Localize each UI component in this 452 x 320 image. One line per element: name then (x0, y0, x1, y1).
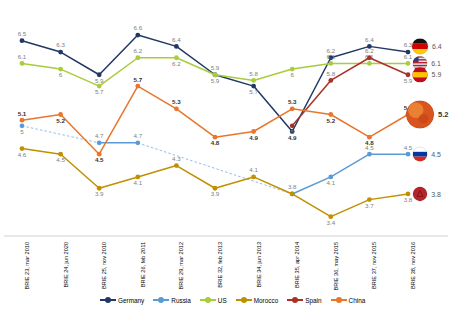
series-line (292, 58, 408, 126)
legend-item-spain[interactable]: Spain (287, 296, 321, 304)
data-label: 5 (290, 128, 294, 135)
legend-item-us[interactable]: US (200, 296, 227, 304)
data-point[interactable] (58, 50, 63, 55)
legend-label: Russia (171, 297, 191, 304)
data-label: 6.3 (56, 41, 65, 48)
data-label: 4.5 (95, 156, 104, 163)
end-value-label: 5.2 (438, 110, 449, 119)
data-point[interactable] (290, 192, 295, 197)
data-point[interactable] (367, 55, 372, 60)
data-point[interactable] (328, 61, 333, 66)
data-point[interactable] (135, 140, 140, 145)
legend-marker-icon (153, 296, 169, 304)
x-tick-label: BRIE 32, feb 2013 (217, 242, 223, 288)
data-point[interactable] (174, 106, 179, 111)
data-point[interactable] (251, 175, 256, 180)
legend-label: Morocco (254, 297, 279, 304)
chart-container: 6.56.35.96.66.45.95.74.96.26.46.354.74.7… (0, 0, 452, 320)
end-marker-morocco[interactable]: 3.8 (413, 187, 441, 201)
data-label: 4.1 (326, 179, 335, 186)
data-label: 5 (20, 128, 24, 135)
legend-item-russia[interactable]: Russia (153, 296, 191, 304)
data-point[interactable] (135, 84, 140, 89)
x-tick-label: BRIE 35, apr 2014 (294, 242, 300, 288)
legend-label: China (349, 297, 366, 304)
legend-item-china[interactable]: China (331, 296, 366, 304)
data-label: 4.1 (133, 179, 142, 186)
data-label: 4.7 (95, 132, 104, 139)
x-tick-label: BRIE 37, nov 2015 (371, 242, 377, 289)
data-label: 4.5 (404, 144, 413, 151)
end-value-label: 4.5 (431, 151, 441, 158)
x-tick-label: BRIE 23, mar 2010 (24, 242, 30, 290)
data-label: 6.6 (133, 24, 142, 31)
data-point[interactable] (367, 152, 372, 157)
series-china: 5.15.24.55.75.34.84.95.35.24.85.2 (18, 76, 413, 164)
data-label: 6 (59, 71, 63, 78)
data-point[interactable] (20, 118, 25, 123)
data-label: 3.9 (95, 190, 104, 197)
series-germany: 6.56.35.96.66.45.95.74.96.26.46.3 (18, 24, 413, 140)
data-point[interactable] (97, 140, 102, 145)
data-label: 5.7 (133, 76, 142, 83)
legend-item-morocco[interactable]: Morocco (236, 296, 279, 304)
data-label: 3.7 (365, 202, 374, 209)
data-label: 5.8 (326, 70, 335, 77)
data-label: 5.9 (211, 64, 220, 71)
data-label: 4.3 (172, 155, 181, 162)
data-label: 5.3 (288, 98, 297, 105)
data-point[interactable] (20, 61, 25, 66)
chart-legend: GermanyRussiaUSMoroccoSpainChina (100, 296, 365, 304)
end-value-label: 3.8 (431, 191, 441, 198)
end-marker-china[interactable]: 5.2 (406, 100, 449, 128)
data-label: 6.3 (404, 41, 413, 48)
data-point[interactable] (406, 152, 411, 157)
data-label: 5.7 (249, 88, 258, 95)
end-marker-russia[interactable]: 4.5 (413, 147, 441, 161)
legend-label: Spain (305, 297, 321, 304)
data-point[interactable] (20, 38, 25, 43)
data-label: 5.2 (56, 117, 65, 124)
x-tick-label: BRIE 34, jun 2013 (256, 242, 262, 287)
series-line (292, 154, 408, 194)
data-label: 6.2 (365, 47, 374, 54)
x-tick-label: BRIE 26, feb 2011 (140, 242, 146, 287)
data-point[interactable] (367, 61, 372, 66)
data-point[interactable] (174, 44, 179, 49)
data-label: 3.9 (211, 190, 220, 197)
data-point[interactable] (135, 55, 140, 60)
data-label: 6.5 (18, 30, 27, 37)
x-tick-label: BRIE 38, nov 2016 (410, 242, 416, 289)
data-point[interactable] (328, 78, 333, 83)
data-point[interactable] (213, 72, 218, 77)
legend-item-germany[interactable]: Germany (100, 296, 144, 304)
end-marker-spain[interactable]: 5.9 (412, 67, 441, 82)
data-point[interactable] (290, 106, 295, 111)
data-label: 3.8 (288, 183, 297, 190)
data-label: 4.6 (18, 151, 27, 158)
x-tick-label: BRIE 29, mar 2012 (178, 242, 184, 290)
data-label: 6.1 (326, 53, 335, 60)
dashed-connector (22, 126, 99, 143)
data-label: 4.8 (211, 139, 220, 146)
end-value-label: 5.9 (432, 71, 442, 78)
data-label: 4.1 (249, 166, 258, 173)
data-label: 4.9 (249, 134, 258, 141)
end-value-label: 6.4 (432, 43, 442, 50)
data-label: 5.3 (172, 98, 181, 105)
x-tick-label: BRIE 36, may 2015 (333, 242, 339, 291)
data-label: 6.4 (172, 36, 181, 43)
legend-marker-icon (236, 296, 252, 304)
data-label: 5.1 (18, 110, 27, 117)
data-label: 6.1 (404, 53, 413, 60)
data-point[interactable] (406, 61, 411, 66)
data-label: 5.9 (211, 77, 220, 84)
data-point[interactable] (135, 33, 140, 38)
data-label: 3.4 (326, 219, 335, 226)
end-value-label: 6.1 (431, 60, 441, 67)
data-label: 5.2 (326, 117, 335, 124)
end-marker-germany[interactable]: 6.4 (412, 38, 442, 54)
data-point[interactable] (174, 163, 179, 168)
data-label: 5.8 (249, 70, 258, 77)
data-point[interactable] (251, 78, 256, 83)
